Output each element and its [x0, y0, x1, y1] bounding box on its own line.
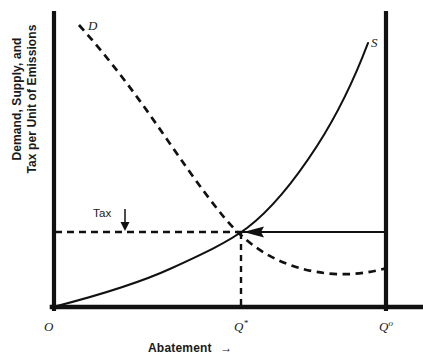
x-axis-title-text: Abatement: [148, 341, 212, 355]
q-star-superscript: *: [243, 318, 248, 328]
x-tick-label-origin: O: [44, 320, 53, 333]
q-zero-superscript: o: [388, 318, 393, 328]
economics-diagram-figure: Demand, Supply, and Tax per Unit of Emis…: [0, 0, 423, 362]
x-tick-label-q-star: Q*: [234, 320, 248, 333]
y-axis-title: Demand, Supply, and Tax per Unit of Emis…: [10, 0, 40, 209]
y-axis-title-line-1: Demand, Supply, and: [10, 0, 25, 209]
tax-annotation-label: Tax: [93, 208, 112, 220]
x-axis-arrow-icon: →: [220, 341, 232, 355]
q-star-base: Q: [234, 319, 243, 334]
supply-curve: [55, 43, 368, 307]
demand-curve-label: D: [88, 19, 97, 32]
x-tick-label-q-zero: Qo: [379, 320, 393, 333]
x-axis-title: Abatement →: [148, 342, 233, 354]
q-zero-base: Q: [379, 319, 388, 334]
supply-curve-label: S: [371, 36, 378, 49]
y-axis-title-line-2: Tax per Unit of Emissions: [25, 0, 40, 209]
tax-callout-arrow-head-icon: [121, 222, 130, 231]
diagram-canvas: [0, 0, 423, 362]
